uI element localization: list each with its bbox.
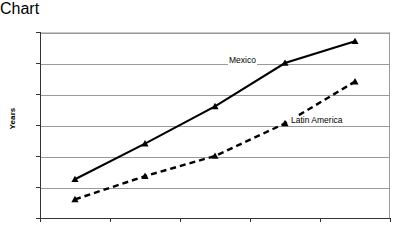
series-label-latin-america: Latin America bbox=[290, 116, 344, 125]
data-point-marker bbox=[351, 38, 358, 44]
x-tick-label: 1985 bbox=[136, 225, 154, 226]
data-point-marker bbox=[281, 120, 288, 126]
x-axis-line bbox=[40, 218, 391, 219]
x-tick-mark bbox=[390, 218, 391, 222]
line-chart: Years 64666870727476 1980198519902000200… bbox=[0, 18, 404, 226]
x-tick-mark bbox=[40, 218, 41, 222]
x-tick-label: 2005 bbox=[346, 225, 364, 226]
y-axis-title: Years bbox=[8, 89, 17, 149]
series-line-latin-america bbox=[75, 82, 355, 200]
x-tick-mark bbox=[110, 218, 111, 222]
x-tick-label: 2000 bbox=[276, 225, 294, 226]
x-tick-mark bbox=[250, 218, 251, 222]
series-plot bbox=[40, 32, 390, 218]
x-tick-label: 1980 bbox=[66, 225, 84, 226]
x-tick-label: 1990 bbox=[206, 225, 224, 226]
data-point-marker bbox=[351, 78, 358, 84]
x-tick-mark bbox=[180, 218, 181, 222]
x-tick-mark bbox=[320, 218, 321, 222]
series-label-mexico: Mexico bbox=[228, 56, 257, 65]
